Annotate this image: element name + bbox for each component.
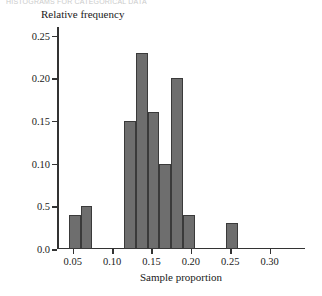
x-tick-mark — [73, 249, 75, 254]
y-tick-mark — [52, 78, 57, 80]
y-tick-label: 0.0 — [37, 244, 50, 255]
x-axis-title: Sample proportion — [57, 271, 305, 283]
y-tick-mark — [52, 164, 57, 166]
y-tick-label: 0.10 — [32, 158, 50, 169]
x-tick-label: 0.15 — [142, 256, 160, 267]
y-tick-mark — [52, 36, 57, 38]
x-tick-mark — [230, 249, 232, 254]
histogram-bar — [171, 78, 183, 249]
y-tick-label: 0.25 — [32, 30, 50, 41]
y-tick-label: 0.20 — [32, 73, 50, 84]
x-tick-mark — [112, 249, 114, 254]
y-tick-label: 0.5 — [37, 201, 50, 212]
histogram-bar — [69, 215, 81, 249]
x-tick-label: 0.05 — [64, 256, 82, 267]
histogram-bar — [159, 164, 171, 249]
y-axis-line — [57, 27, 59, 249]
x-tick-label: 0.25 — [221, 256, 239, 267]
x-tick-label: 0.20 — [182, 256, 200, 267]
x-tick-mark — [191, 249, 193, 254]
plot-area: 0.00.50.100.150.200.25 0.050.100.150.200… — [57, 27, 305, 249]
x-tick-label: 0.10 — [103, 256, 121, 267]
histogram-bar — [124, 121, 136, 249]
histogram-bar — [81, 206, 93, 249]
y-axis-title: Relative frequency — [41, 8, 124, 20]
histogram-bar — [183, 215, 195, 249]
running-head: HISTOGRAMS FOR CATEGORICAL DATA — [6, 0, 306, 7]
y-tick-label: 0.15 — [32, 115, 50, 126]
y-tick-mark — [52, 249, 57, 251]
x-tick-mark — [151, 249, 153, 254]
x-tick-label: 0.30 — [260, 256, 278, 267]
histogram-figure: HISTOGRAMS FOR CATEGORICAL DATA Relative… — [0, 0, 322, 296]
histogram-bar — [226, 223, 238, 249]
y-tick-mark — [52, 206, 57, 208]
x-tick-mark — [270, 249, 272, 254]
histogram-bar — [136, 53, 148, 249]
histogram-bar — [148, 112, 160, 249]
y-tick-mark — [52, 121, 57, 123]
